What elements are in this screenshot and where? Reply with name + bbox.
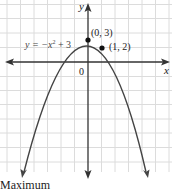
equation-tail: + 3 [55,39,71,50]
x-axis-label: x [164,65,169,76]
point-label-1-2: (1, 2) [109,42,131,52]
y-axis-label: y [79,1,84,12]
caption-maximum: Maximum [0,178,50,192]
vertex-point [85,37,90,42]
equation-label: y = −x2 + 3 [25,39,71,50]
graph-canvas [0,0,172,192]
point-1-2 [99,45,104,50]
parabola-curve [21,46,150,178]
equation-main: y = −x [25,39,52,50]
grid [0,0,172,172]
vertex-label: (0, 3) [91,28,113,38]
origin-label: 0 [79,67,84,77]
